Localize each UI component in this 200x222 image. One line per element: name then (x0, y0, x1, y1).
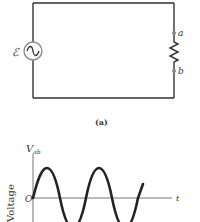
y-axis-label: Vab (26, 143, 41, 155)
figure: ℰ a b (a) Vab O t Voltage (0, 0, 200, 222)
sine-curve (33, 168, 143, 222)
resistor-icon (170, 40, 178, 64)
origin-label: O (25, 194, 33, 204)
x-axis-label: t (176, 194, 180, 203)
node-a-label: a (178, 28, 183, 38)
node-b-dot (172, 69, 176, 73)
emf-symbol: ℰ (12, 46, 20, 59)
y-axis-title: Voltage (5, 184, 16, 222)
circuit-diagram: ℰ a b (12, 3, 184, 98)
voltage-graph: Vab O t Voltage (5, 143, 180, 222)
ac-source-icon (24, 42, 42, 60)
node-a-dot (172, 31, 176, 35)
caption-a: (a) (95, 117, 108, 127)
node-b-label: b (178, 66, 184, 76)
